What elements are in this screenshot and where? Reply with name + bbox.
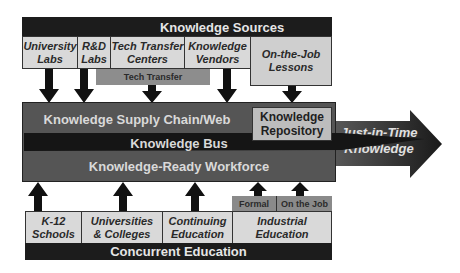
source-tech-transfer-centers: Tech Transfer Centers xyxy=(110,36,185,69)
source-university-labs: University Labs xyxy=(22,36,78,69)
source-on-the-job-lessons: On-the-Job Lessons xyxy=(250,36,332,86)
tech-transfer-bar: Tech Transfer xyxy=(96,69,210,85)
knowledge-repository-box: Knowledge Repository xyxy=(252,107,332,141)
education-universities-colleges: Universities & Colleges xyxy=(81,211,163,244)
up-arrow-icon xyxy=(249,182,267,197)
up-arrow-icon xyxy=(291,182,309,197)
down-arrow-icon xyxy=(74,69,94,103)
education-k12-schools: K-12 Schools xyxy=(25,211,82,244)
knowledge-sources-header: Knowledge Sources xyxy=(22,17,332,37)
up-arrow-icon xyxy=(28,182,48,212)
source-rd-labs: R&D Labs xyxy=(77,36,111,69)
education-continuing: Continuing Education xyxy=(162,211,233,244)
knowledge-ready-workforce-row: Knowledge-Ready Workforce xyxy=(22,152,336,180)
education-industrial: Industrial Education xyxy=(232,211,332,244)
industrial-on-the-job-label: On the Job xyxy=(277,196,332,212)
knowledge-sources-title: Knowledge Sources xyxy=(160,20,284,35)
concurrent-education-footer: Concurrent Education xyxy=(25,243,332,260)
industrial-formal-label: Formal xyxy=(232,196,277,212)
down-arrow-icon xyxy=(217,69,237,103)
down-arrow-icon xyxy=(39,69,59,103)
knowledge-supply-chain-row: Knowledge Supply Chain/Web xyxy=(22,104,252,134)
source-knowledge-vendors: Knowledge Vendors xyxy=(184,36,251,69)
up-arrow-icon xyxy=(185,182,205,212)
up-arrow-icon xyxy=(113,182,133,212)
concurrent-education-title: Concurrent Education xyxy=(110,244,247,259)
down-arrow-icon xyxy=(142,85,162,103)
down-arrow-icon xyxy=(282,86,302,103)
